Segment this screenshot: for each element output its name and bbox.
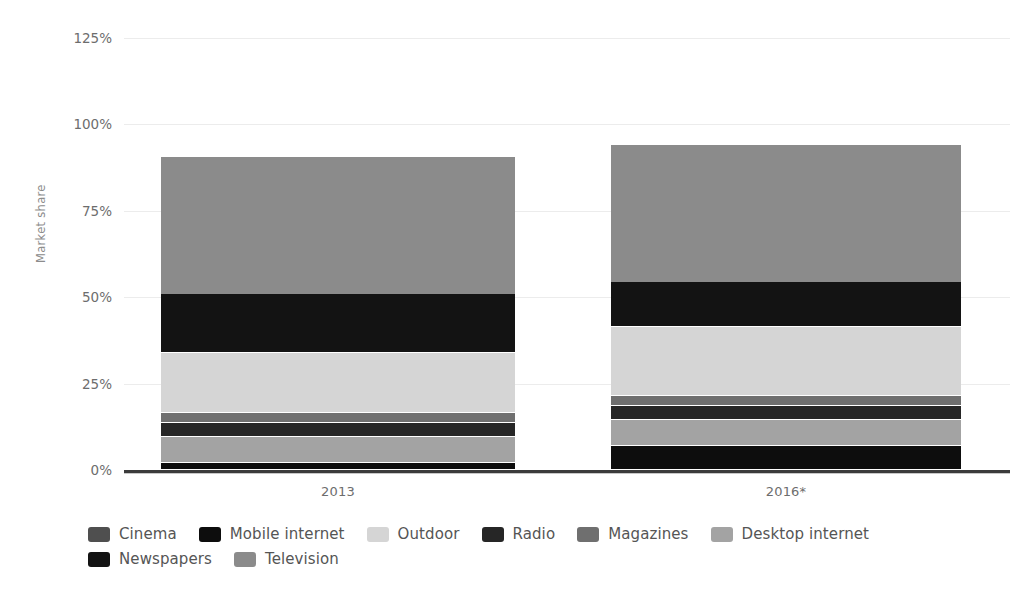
bar-2016[interactable]: [611, 124, 961, 470]
chart-legend: CinemaMobile internetOutdoorRadioMagazin…: [88, 525, 988, 568]
y-tick-label: 75%: [0, 203, 112, 219]
y-axis-title: Market share: [34, 184, 48, 263]
bar-segment[interactable]: [611, 282, 961, 327]
legend-swatch-icon: [577, 527, 599, 542]
legend-label: Radio: [513, 525, 556, 543]
legend-swatch-icon: [482, 527, 504, 542]
legend-item[interactable]: Television: [234, 550, 339, 568]
legend-label: Desktop internet: [742, 525, 870, 543]
legend-item[interactable]: Desktop internet: [711, 525, 870, 543]
bar-segment[interactable]: [611, 420, 961, 446]
bar-segment[interactable]: [161, 294, 515, 353]
legend-item[interactable]: Outdoor: [367, 525, 460, 543]
y-tick-label: 100%: [0, 116, 112, 132]
legend-label: Outdoor: [398, 525, 460, 543]
bar-segment[interactable]: [161, 157, 515, 294]
y-tick-label: 125%: [0, 30, 112, 46]
legend-item[interactable]: Radio: [482, 525, 556, 543]
bar-segment[interactable]: [611, 406, 961, 420]
legend-label: Television: [265, 550, 339, 568]
y-tick-label: 25%: [0, 376, 112, 392]
bar-segment[interactable]: [611, 327, 961, 396]
legend-swatch-icon: [711, 527, 733, 542]
legend-swatch-icon: [88, 527, 110, 542]
bar-segment[interactable]: [161, 437, 515, 463]
x-tick-label: 2016*: [611, 484, 961, 499]
legend-item[interactable]: Mobile internet: [199, 525, 345, 543]
legend-label: Mobile internet: [230, 525, 345, 543]
legend-label: Newspapers: [119, 550, 212, 568]
legend-item[interactable]: Cinema: [88, 525, 177, 543]
x-tick-label: 2013: [161, 484, 515, 499]
legend-item[interactable]: Newspapers: [88, 550, 212, 568]
legend-swatch-icon: [367, 527, 389, 542]
bar-segment[interactable]: [611, 446, 961, 470]
y-tick-label: 50%: [0, 289, 112, 305]
legend-swatch-icon: [88, 552, 110, 567]
stacked-bar-chart: Market share 0%25%50%75%100%125% 2013201…: [0, 0, 1022, 591]
legend-swatch-icon: [199, 527, 221, 542]
bar-segment[interactable]: [611, 396, 961, 406]
bar-segment[interactable]: [611, 145, 961, 282]
bar-2013[interactable]: [161, 124, 515, 470]
bar-segment[interactable]: [161, 423, 515, 437]
y-tick-label: 0%: [0, 462, 112, 478]
legend-label: Magazines: [608, 525, 688, 543]
bar-segment[interactable]: [161, 413, 515, 423]
bar-segment[interactable]: [161, 353, 515, 413]
legend-swatch-icon: [234, 552, 256, 567]
plot-area: [124, 38, 1004, 470]
x-axis-baseline: [124, 470, 1010, 473]
legend-label: Cinema: [119, 525, 177, 543]
bar-segment[interactable]: [161, 463, 515, 470]
legend-item[interactable]: Magazines: [577, 525, 688, 543]
